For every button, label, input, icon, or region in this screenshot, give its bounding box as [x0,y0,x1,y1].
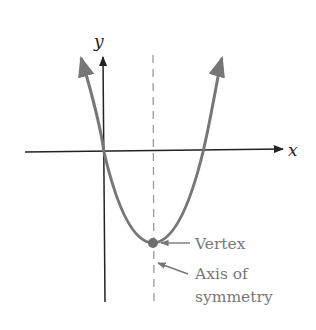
y-axis-label: y [93,31,104,51]
axis-of-symmetry-label-line2: symmetry [195,288,273,306]
diagram-canvas: y x Vertex Axis of symmetry [0,0,316,330]
vertex-label: Vertex [194,235,246,253]
axis-of-symmetry-label-line1: Axis of [194,265,249,283]
x-axis [25,149,283,152]
x-axis-label: x [288,140,298,160]
axis-pointer-arrow-icon [158,263,188,274]
axis-of-symmetry-line [153,55,154,303]
vertex-point [148,238,158,248]
curve-left-arrow-icon [81,58,85,72]
curve-right-arrow-icon [218,58,222,72]
y-axis [103,57,105,302]
parabola-diagram: y x Vertex Axis of symmetry [0,0,316,330]
